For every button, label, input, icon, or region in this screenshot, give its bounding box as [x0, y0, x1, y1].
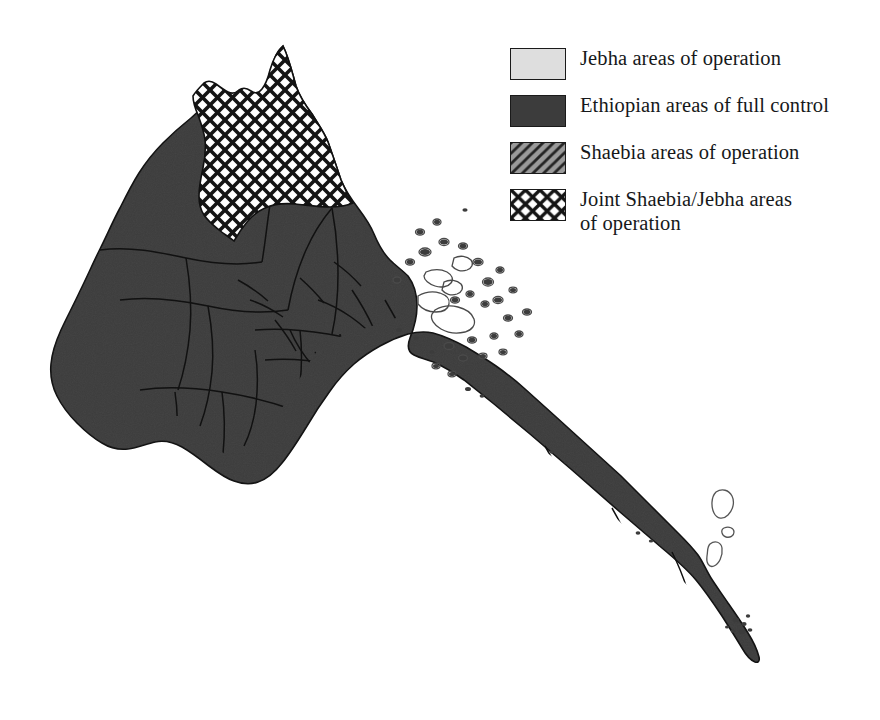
legend-label-ethiopian: Ethiopian areas of full control [580, 93, 829, 118]
legend-item-ethiopian: Ethiopian areas of full control [510, 93, 870, 127]
legend-swatch-light-gray-icon [510, 48, 566, 80]
legend-item-jebha: Jebha areas of operation [510, 46, 870, 80]
legend-label-shaebia: Shaebia areas of operation [580, 140, 799, 165]
legend-swatch-dark-gray-icon [510, 95, 566, 127]
southeastern-offshore-islands [707, 490, 734, 567]
map-page: Jebha areas of operation Ethiopian areas… [0, 0, 880, 720]
legend-item-shaebia: Shaebia areas of operation [510, 140, 870, 174]
legend-item-joint: Joint Shaebia/Jebha areas of operation [510, 187, 870, 236]
diagonal-hatch-pattern-icon [511, 143, 565, 173]
legend-label-joint: Joint Shaebia/Jebha areas of operation [580, 187, 792, 236]
legend-swatch-diagonal-hatch-icon [510, 142, 566, 174]
legend-label-jebha: Jebha areas of operation [580, 46, 781, 71]
map-legend: Jebha areas of operation Ethiopian areas… [510, 46, 870, 249]
crosshatch-pattern-icon [511, 190, 565, 220]
legend-swatch-crosshatch-icon [510, 189, 566, 221]
